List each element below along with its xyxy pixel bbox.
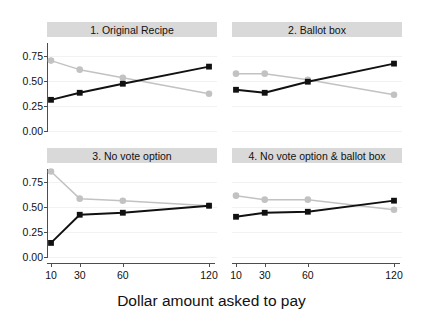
series-layer-2 [232,37,402,137]
series-line-dark [236,201,394,217]
x-tick-2 [123,263,124,267]
y-tick-label-3: 0.75 [11,176,43,188]
data-point-light-10 [233,192,240,199]
x-axis-title: Dollar amount asked to pay [0,292,423,310]
facet-panel-3: 3. No vote option [47,148,217,263]
x-tick-2 [308,263,309,267]
data-point-dark-120 [206,64,212,70]
data-point-dark-10 [48,240,54,246]
x-tick-1 [265,263,266,267]
series-layer-4 [232,163,402,263]
data-point-dark-60 [120,81,126,87]
data-point-dark-30 [77,212,83,218]
x-tick-3 [209,263,210,267]
data-point-dark-30 [262,90,268,96]
facet-panel-1: 1. Original Recipe [47,22,217,137]
series-line-light [51,61,209,94]
data-point-dark-10 [233,87,239,93]
x-axis-line [232,263,400,264]
x-tick-label-2: 60 [117,269,129,281]
data-point-light-30 [76,195,83,202]
x-tick-3 [394,263,395,267]
data-point-dark-120 [206,203,212,209]
data-point-light-120 [391,206,398,213]
y-tick-label-0: 0.00 [11,125,43,137]
series-line-dark [51,206,209,243]
data-point-light-30 [261,196,268,203]
data-point-dark-60 [305,209,311,215]
x-tick-label-2: 60 [302,269,314,281]
plot-area-1 [47,37,217,137]
data-point-dark-60 [120,210,126,216]
data-point-dark-10 [233,214,239,220]
data-point-light-120 [206,90,213,97]
series-line-light [236,196,394,210]
plot-area-4 [232,163,402,263]
chart-figure: 0.000.250.500.751. Original Recipe2. Bal… [0,0,423,325]
data-point-light-60 [120,197,127,204]
data-point-light-10 [48,57,55,64]
plot-area-2 [232,37,402,137]
x-axis-line [47,263,215,264]
x-tick-0 [51,263,52,267]
facet-strip-label-3: 3. No vote option [47,148,217,163]
series-line-dark [236,64,394,93]
x-tick-label-0: 10 [230,269,242,281]
data-point-dark-30 [262,210,268,216]
y-tick-label-3: 0.75 [11,50,43,62]
y-tick-label-0: 0.00 [11,251,43,263]
series-layer-3 [47,163,217,263]
series-line-light [51,172,209,206]
series-line-dark [51,67,209,100]
data-point-dark-30 [77,90,83,96]
data-point-light-60 [120,74,127,81]
data-point-light-30 [76,66,83,73]
x-tick-0 [236,263,237,267]
y-tick-label-1: 0.25 [11,226,43,238]
facet-panel-4: 4. No vote option & ballot box [232,148,402,263]
y-tick-label-2: 0.50 [11,201,43,213]
x-tick-label-1: 30 [74,269,86,281]
facet-panel-2: 2. Ballot box [232,22,402,137]
x-tick-1 [80,263,81,267]
data-point-light-10 [48,168,55,175]
data-point-dark-120 [391,61,397,67]
facet-strip-label-2: 2. Ballot box [232,22,402,37]
x-tick-label-3: 120 [200,269,218,281]
series-layer-1 [47,37,217,137]
data-point-dark-120 [391,198,397,204]
data-point-light-30 [261,70,268,77]
facet-strip-label-1: 1. Original Recipe [47,22,217,37]
facet-strip-label-4: 4. No vote option & ballot box [232,148,402,163]
y-tick-label-2: 0.50 [11,75,43,87]
data-point-light-10 [233,70,240,77]
x-tick-label-0: 10 [45,269,57,281]
plot-area-3 [47,163,217,263]
x-tick-label-1: 30 [259,269,271,281]
data-point-light-120 [391,91,398,98]
data-point-dark-60 [305,79,311,85]
data-point-light-60 [305,196,312,203]
x-tick-label-3: 120 [385,269,403,281]
data-point-dark-10 [48,97,54,103]
y-tick-label-1: 0.25 [11,100,43,112]
